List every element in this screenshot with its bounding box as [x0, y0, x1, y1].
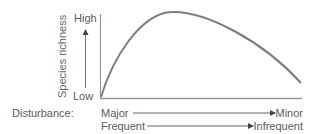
y-high-label: High [74, 12, 97, 24]
y-axis-label: Species richness [56, 15, 68, 98]
major-label: Major [101, 107, 129, 119]
disturbance-label: Disturbance: [12, 107, 74, 119]
species-richness-curve [101, 12, 301, 97]
infrequent-label: Infrequent [253, 120, 303, 132]
frequent-label: Frequent [101, 120, 145, 132]
y-low-label: Low [73, 90, 93, 102]
minor-label: Minor [275, 107, 303, 119]
